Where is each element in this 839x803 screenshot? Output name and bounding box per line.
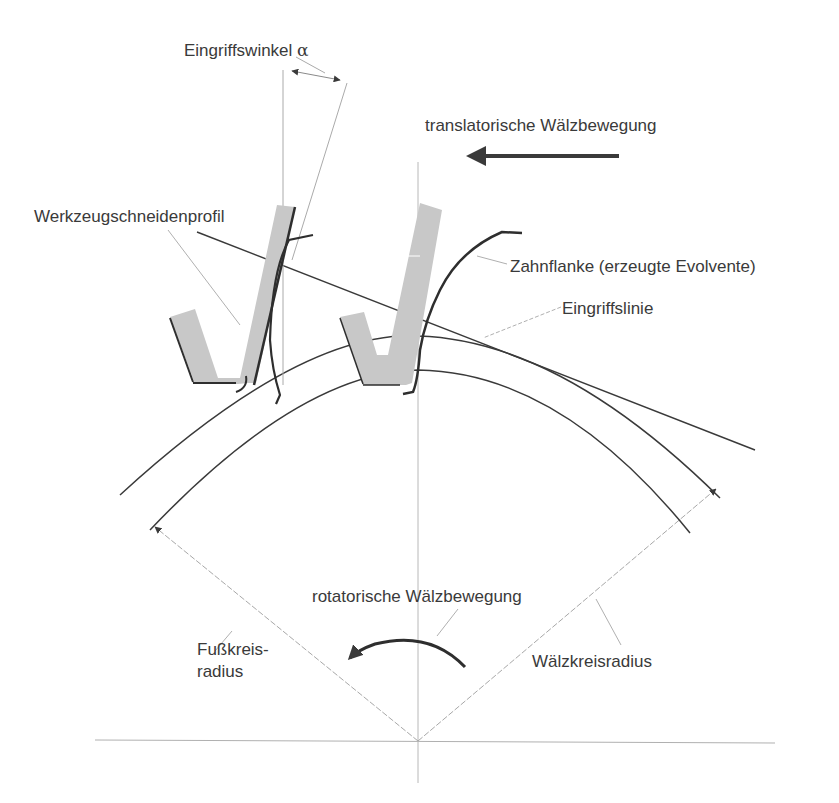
root-radius-label: Fußkreis- radius xyxy=(197,639,269,683)
pressure-angle-arrow xyxy=(292,71,340,80)
alpha-symbol: α xyxy=(297,40,308,60)
root-radius-line xyxy=(155,527,418,741)
tooth-flank-label: Zahnflanke (erzeugte Evolvente) xyxy=(510,257,756,277)
gear-generation-diagram xyxy=(0,0,839,803)
pressure-angle-text: Eingriffswinkel xyxy=(184,41,292,60)
line-of-action-leader xyxy=(483,307,561,338)
line-of-action-label: Eingriffslinie xyxy=(562,299,653,319)
tool-profile-label: Werkzeugschneidenprofil xyxy=(34,207,225,227)
pressure-angle-inclined xyxy=(292,83,347,260)
pitch-radius-label: Wälzkreisradius xyxy=(532,652,652,672)
horizontal-center-line xyxy=(95,740,775,743)
tooth-flank-leader xyxy=(477,256,507,264)
pitch-radius-leader xyxy=(596,599,621,645)
pressure-angle-label: Eingriffswinkel α xyxy=(184,40,309,61)
rotational-motion-arrow xyxy=(350,640,465,667)
tool-profile-left xyxy=(170,205,295,392)
rotational-motion-leader xyxy=(437,609,458,636)
translational-motion-label: translatorische Wälzbewegung xyxy=(425,116,657,136)
pitch-radius-line xyxy=(418,489,716,741)
root-circle-arc xyxy=(150,370,690,533)
rotational-motion-label: rotatorische Wälzbewegung xyxy=(312,587,522,607)
